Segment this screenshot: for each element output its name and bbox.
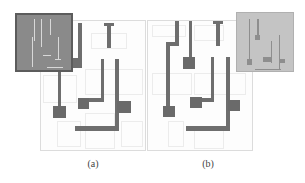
pad (228, 100, 240, 111)
grid-cell (194, 73, 246, 95)
trace (34, 19, 35, 41)
pad (117, 101, 131, 113)
grid-cell (152, 73, 192, 95)
trace (255, 35, 260, 40)
wire (189, 21, 192, 61)
wire (58, 72, 61, 108)
trace (279, 59, 285, 63)
pad (183, 57, 195, 69)
grid-cell (57, 121, 81, 147)
wire (216, 21, 220, 46)
pad (190, 97, 202, 108)
wire (107, 23, 111, 48)
trace (279, 35, 280, 69)
grid-cell (168, 121, 184, 147)
trace (50, 19, 51, 35)
micrograph-inset-a (15, 13, 73, 72)
wire (75, 126, 119, 131)
grid-cell (194, 129, 224, 149)
trace (263, 57, 272, 62)
trace (47, 67, 63, 68)
trace (55, 59, 61, 60)
trace (247, 59, 252, 65)
caption-a: (a) (78, 158, 108, 169)
trace (43, 55, 51, 56)
trace (255, 69, 281, 70)
grid-cell (121, 121, 143, 147)
pad (78, 98, 89, 109)
wire (166, 42, 170, 108)
grid-cell (85, 113, 115, 149)
pad (163, 106, 175, 117)
wire (72, 58, 82, 68)
caption-b: (b) (193, 158, 223, 169)
wire (115, 59, 119, 129)
micrograph-inset-b (236, 12, 294, 72)
wire (101, 59, 104, 101)
pad (53, 106, 66, 118)
wire (226, 57, 230, 129)
wire (186, 126, 230, 131)
trace (41, 19, 42, 47)
grid-cell (85, 69, 143, 95)
trace (32, 37, 33, 67)
trace (58, 37, 59, 59)
wire (211, 57, 214, 101)
grid-cell (152, 25, 186, 37)
